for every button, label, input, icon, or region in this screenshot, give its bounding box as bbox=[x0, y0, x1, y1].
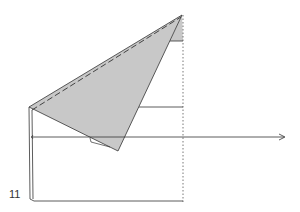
left-edge-outer bbox=[29, 107, 30, 199]
shaded-triangle-flap bbox=[29, 15, 182, 151]
fold-diagram-svg bbox=[0, 0, 300, 212]
left-edge-inner bbox=[32, 110, 33, 199]
step-number: 11 bbox=[9, 188, 20, 200]
left-edge-bottom-join bbox=[30, 199, 34, 201]
